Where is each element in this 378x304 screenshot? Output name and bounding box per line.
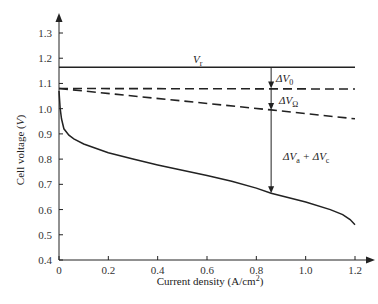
delta-v0-label: ΔV0 bbox=[275, 72, 293, 87]
y-tick-label: 1.0 bbox=[38, 103, 52, 115]
x-axis-label: Current density (A/cm2) bbox=[157, 274, 264, 288]
annotations bbox=[268, 67, 274, 193]
arrow-head-icon bbox=[268, 103, 274, 110]
y-axis-label: Cell voltage (V) bbox=[14, 115, 27, 186]
x-tick-label: 1.2 bbox=[348, 264, 362, 276]
arrow-head-icon bbox=[268, 81, 274, 88]
y-tick-label: 0.9 bbox=[38, 128, 52, 140]
y-tick-label: 0.5 bbox=[38, 229, 52, 241]
x-tick-label: 0.2 bbox=[101, 264, 115, 276]
ohmic-dashed-line bbox=[59, 89, 355, 119]
series-group bbox=[59, 67, 355, 224]
y-tick-label: 1.1 bbox=[38, 77, 52, 89]
vr-label: Vr bbox=[193, 53, 203, 68]
ocv-dashed-line bbox=[59, 89, 355, 90]
x-tick-label: 0 bbox=[56, 264, 62, 276]
delta-v-ohm-label: ΔVΩ bbox=[278, 94, 298, 109]
axes: 0.40.50.60.70.80.91.01.11.21.300.20.40.6… bbox=[38, 13, 375, 276]
y-tick-label: 0.8 bbox=[38, 153, 52, 165]
y-tick-label: 0.4 bbox=[38, 254, 52, 266]
y-axis-arrow-icon bbox=[56, 13, 63, 22]
delta-va-vc-label: ΔVa + ΔVc bbox=[282, 150, 330, 165]
y-tick-label: 1.3 bbox=[38, 27, 52, 39]
x-tick-label: 1.0 bbox=[299, 264, 313, 276]
x-axis-arrow-icon bbox=[366, 257, 375, 264]
y-tick-label: 1.2 bbox=[38, 52, 52, 64]
y-tick-label: 0.7 bbox=[38, 178, 52, 190]
y-tick-label: 0.6 bbox=[38, 204, 52, 216]
polarization-chart: 0.40.50.60.70.80.91.01.11.21.300.20.40.6… bbox=[0, 0, 378, 304]
